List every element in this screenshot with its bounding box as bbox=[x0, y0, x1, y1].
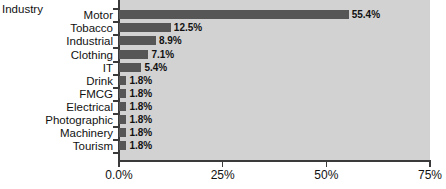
bar-it[interactable] bbox=[119, 63, 141, 72]
x-axis-tick bbox=[429, 161, 431, 167]
bar-fmcg[interactable] bbox=[119, 89, 126, 98]
bar-value-label-clothing: 7.1% bbox=[151, 49, 174, 60]
bar-value-label-photographic: 1.8% bbox=[129, 114, 152, 125]
x-axis-tick-label: 25% bbox=[211, 168, 235, 182]
bar-value-label-drink: 1.8% bbox=[129, 75, 152, 86]
x-axis-tick bbox=[118, 161, 120, 167]
y-axis-label-it: IT bbox=[0, 62, 113, 75]
bar-tobacco[interactable] bbox=[119, 23, 171, 32]
y-axis-tick bbox=[113, 21, 119, 23]
y-axis-label-electrical: Electrical bbox=[0, 101, 113, 114]
bar-photographic[interactable] bbox=[119, 115, 126, 124]
y-axis-tick bbox=[113, 152, 119, 154]
bar-electrical[interactable] bbox=[119, 102, 126, 111]
x-axis-tick-label: 50% bbox=[314, 168, 338, 182]
y-axis-label-clothing: Clothing bbox=[0, 49, 113, 62]
x-axis-line bbox=[118, 160, 431, 162]
bar-value-label-fmcg: 1.8% bbox=[129, 88, 152, 99]
y-axis-label-tourism: Tourism bbox=[0, 140, 113, 153]
bar-motor[interactable] bbox=[119, 10, 349, 19]
y-axis-label-machinery: Machinery bbox=[0, 127, 113, 140]
x-axis-tick bbox=[222, 161, 224, 167]
chart-container: Industry MotorTobaccoIndustrialClothingI… bbox=[0, 0, 446, 189]
bar-value-label-tourism: 1.8% bbox=[129, 140, 152, 151]
y-axis-label-fmcg: FMCG bbox=[0, 88, 113, 101]
bar-drink[interactable] bbox=[119, 76, 126, 85]
bar-value-label-machinery: 1.8% bbox=[129, 127, 152, 138]
y-axis-tick bbox=[113, 139, 119, 141]
y-axis-tick bbox=[113, 34, 119, 36]
bar-clothing[interactable] bbox=[119, 50, 148, 59]
bar-industrial[interactable] bbox=[119, 36, 156, 45]
bar-machinery[interactable] bbox=[119, 128, 126, 137]
bar-tourism[interactable] bbox=[119, 141, 126, 150]
x-axis-tick bbox=[326, 161, 328, 167]
bar-value-label-tobacco: 12.5% bbox=[174, 22, 202, 33]
bar-value-label-electrical: 1.8% bbox=[129, 101, 152, 112]
y-axis-label-motor: Motor bbox=[0, 9, 113, 22]
y-axis-label-industrial: Industrial bbox=[0, 35, 113, 48]
y-axis-category-labels: MotorTobaccoIndustrialClothingITDrinkFMC… bbox=[0, 2, 113, 160]
y-axis-tick bbox=[113, 47, 119, 49]
bar-value-label-industrial: 8.9% bbox=[159, 35, 182, 46]
x-axis-tick-label: 75% bbox=[418, 168, 442, 182]
bar-value-label-motor: 55.4% bbox=[352, 9, 380, 20]
y-axis-label-photographic: Photographic bbox=[0, 114, 113, 127]
bar-value-label-it: 5.4% bbox=[144, 62, 167, 73]
y-axis-label-tobacco: Tobacco bbox=[0, 22, 113, 35]
y-axis-label-drink: Drink bbox=[0, 75, 113, 88]
x-axis-tick-label: 0.0% bbox=[105, 168, 132, 182]
